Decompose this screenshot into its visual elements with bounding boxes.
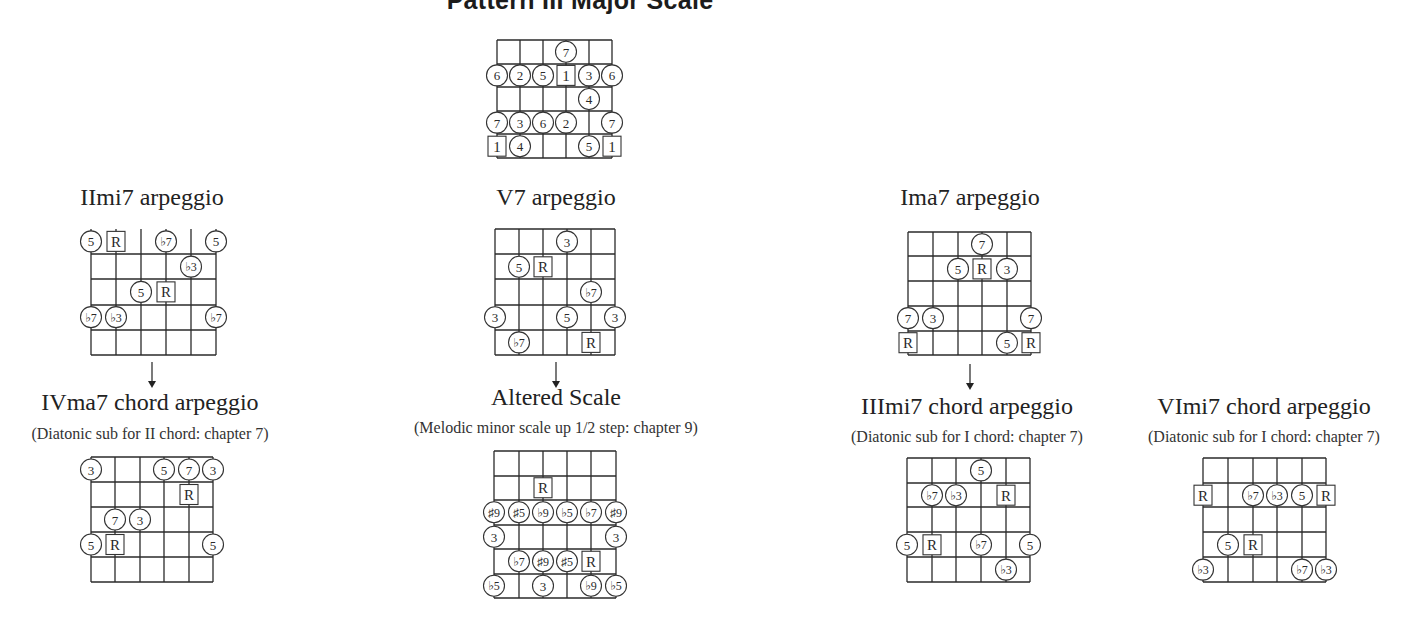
svg-text:1: 1 [562,68,570,84]
svg-text:5: 5 [1004,336,1011,351]
svg-text:5: 5 [1225,538,1232,553]
svg-text:3: 3 [88,463,95,478]
scale-degree-marker: 5 [948,258,969,279]
scale-degree-marker: 5 [206,231,227,252]
root-note-marker: R [180,485,198,505]
svg-text:5: 5 [540,68,547,83]
svg-text:♭3: ♭3 [1271,489,1283,503]
svg-text:R: R [110,537,120,553]
svg-text:♭7: ♭7 [210,311,222,325]
root-note-marker: 1 [488,136,506,156]
altered-scale-diagram: R♯9♯5♭9♭5♭7♯933♭7♯9♯5R♭53♭9♭5 [484,451,627,598]
svg-text:R: R [538,259,548,275]
scale-degree-marker: ♭7 [1292,559,1313,580]
scale-degree-marker: 5 [897,534,918,555]
scale-degree-marker: 3 [579,65,600,86]
scale-degree-marker: 3 [557,231,578,252]
svg-text:R: R [586,335,596,351]
svg-text:♭3: ♭3 [950,489,962,503]
svg-text:5: 5 [955,262,962,277]
svg-text:1: 1 [493,139,501,155]
svg-text:R: R [1026,335,1036,351]
svg-text:5: 5 [213,234,220,249]
scale-degree-marker: 7 [1021,308,1042,329]
scale-degree-marker: 5 [203,534,224,555]
scale-degree-marker: 5 [81,534,102,555]
scale-degree-marker: 5 [81,231,102,252]
svg-text:7: 7 [112,513,119,528]
svg-text:4: 4 [586,92,593,107]
svg-text:♭9: ♭9 [537,506,549,520]
root-note-marker: 1 [603,136,621,156]
svg-text:♭3: ♭3 [1197,563,1209,577]
scale-degree-marker: ♭3 [996,559,1017,580]
scale-degree-marker: ♭7 [971,534,992,555]
svg-text:5: 5 [1027,538,1034,553]
svg-text:7: 7 [1028,311,1035,326]
svg-text:5: 5 [564,310,571,325]
svg-text:♭9: ♭9 [585,579,597,593]
svg-text:♭7: ♭7 [1296,563,1308,577]
svg-text:5: 5 [978,463,985,478]
svg-text:♭7: ♭7 [85,311,97,325]
svg-text:♭3: ♭3 [185,260,197,274]
root-note-marker: R [973,259,991,279]
svg-text:3: 3 [613,530,620,545]
svg-text:7: 7 [494,116,501,131]
svg-text:3: 3 [210,463,217,478]
svg-text:3: 3 [564,235,571,250]
scale-degree-marker: 4 [579,89,600,110]
root-note-marker: R [1194,485,1212,505]
scale-degree-marker: 6 [487,65,508,86]
svg-text:R: R [161,284,171,300]
pattern-iii-major-scale-diagram: 76251364736271451 [487,40,623,158]
scale-degree-marker: ♭7 [581,502,602,523]
root-note-marker: R [1244,535,1262,555]
svg-text:♭7: ♭7 [975,538,987,552]
svg-text:5: 5 [516,260,523,275]
svg-text:♯9: ♯9 [610,506,622,520]
down-arrow-icon [966,364,974,390]
svg-text:R: R [586,554,596,570]
scale-degree-marker: 7 [898,308,919,329]
svg-text:R: R [1248,537,1258,553]
svg-text:♭7: ♭7 [585,286,597,300]
svg-text:R: R [538,480,548,496]
scale-degree-marker: 3 [510,112,531,133]
scale-degree-marker: 7 [487,112,508,133]
svg-text:♭7: ♭7 [513,555,525,569]
scale-degree-marker: ♭5 [606,575,627,596]
svg-text:♭3: ♭3 [1000,563,1012,577]
scale-degree-marker: ♭3 [946,485,967,506]
root-note-marker: R [582,332,600,352]
scale-degree-marker: 3 [533,575,554,596]
scale-degree-marker: ♭3 [1193,559,1214,580]
svg-text:1: 1 [608,139,616,155]
svg-text:♯9: ♯9 [488,506,500,520]
svg-text:7: 7 [609,116,616,131]
svg-text:5: 5 [1299,488,1306,503]
svg-text:♯5: ♯5 [561,555,573,569]
root-note-marker: R [157,282,175,302]
svg-text:3: 3 [930,311,937,326]
svg-text:R: R [111,234,121,250]
scale-degree-marker: ♭3 [106,307,127,328]
svg-text:5: 5 [88,234,95,249]
scale-degree-marker: ♯5 [509,502,530,523]
scale-degree-marker: 3 [485,307,506,328]
scale-degree-marker: ♭9 [533,502,554,523]
svg-text:3: 3 [517,116,524,131]
root-note-marker: 1 [557,65,575,85]
down-arrow-icon [552,362,560,388]
scale-degree-marker: 5 [971,460,992,481]
root-note-marker: R [1317,485,1335,505]
scale-degree-marker: 7 [179,459,200,480]
svg-text:4: 4 [517,139,524,154]
scale-degree-marker: 5 [509,256,530,277]
svg-text:3: 3 [1004,262,1011,277]
svg-text:R: R [1321,488,1331,504]
ima7-arpeggio-diagram: 75R3737R5R [898,232,1042,390]
svg-text:R: R [927,537,937,553]
scale-degree-marker: 5 [997,332,1018,353]
fretboard-grid [494,451,616,598]
